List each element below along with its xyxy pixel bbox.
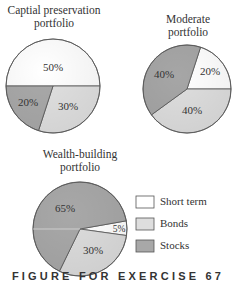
moderate-label-bonds: 40%: [182, 104, 202, 116]
legend-label-bonds: Bonds: [160, 217, 188, 229]
moderate-label-short: 20%: [200, 65, 220, 77]
capital-label-short: 50%: [43, 61, 63, 73]
pie-charts-canvas: 50% 30% 20% 20% 40% 40% 65% 30% 5%: [0, 0, 236, 290]
legend-swatch-stocks: [136, 240, 154, 252]
moderate-label-stocks: 40%: [154, 68, 174, 80]
legend-swatch-short-term: [136, 196, 154, 208]
capital-label-bonds: 30%: [58, 100, 78, 112]
wealth-label-bonds: 30%: [83, 244, 103, 256]
capital-label-stocks: 20%: [18, 96, 38, 108]
figure-caption: FIGURE FOR EXERCISE 67: [0, 270, 236, 282]
legend-label-short-term: Short term: [160, 195, 207, 207]
legend-label-stocks: Stocks: [160, 239, 189, 251]
legend-swatch-bonds: [136, 218, 154, 230]
wealth-label-short: 5%: [113, 224, 126, 234]
wealth-label-stocks: 65%: [55, 202, 75, 214]
